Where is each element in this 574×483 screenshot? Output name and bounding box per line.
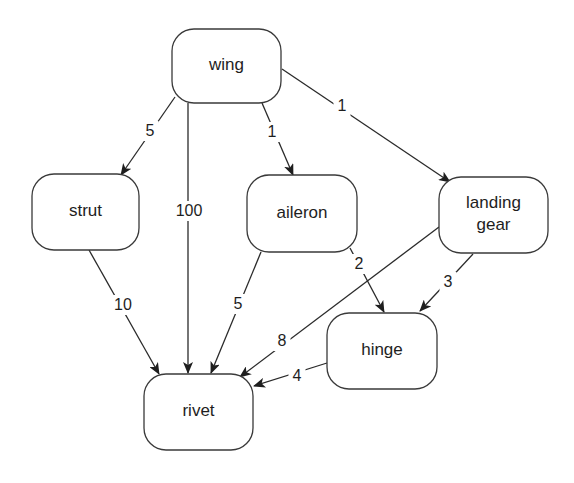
edge-weight-label: 1 — [268, 123, 277, 140]
edge-aileron-to-rivet: 5 — [211, 252, 261, 373]
node-label: gear — [476, 215, 510, 234]
edge-hinge-to-rivet: 4 — [254, 363, 327, 386]
edge-aileron-to-hinge: 2 — [350, 248, 384, 312]
graph-diagram: 5100111052384 wingstrutaileronlandinggea… — [0, 0, 574, 483]
node-landing-gear: landinggear — [439, 177, 548, 253]
nodes-layer: wingstrutaileronlandinggearhingerivet — [32, 29, 548, 450]
edge-wing-to-strut: 5 — [121, 97, 175, 175]
node-label: aileron — [276, 203, 327, 222]
edge-wing-to-landing_gear: 1 — [282, 69, 450, 182]
edge-weight-label: 5 — [146, 122, 155, 139]
node-label: strut — [69, 201, 102, 220]
node-aileron: aileron — [247, 175, 357, 252]
node-strut: strut — [32, 174, 139, 250]
edge-arrow — [282, 69, 450, 182]
edge-weight-label: 2 — [355, 255, 364, 272]
node-hinge: hinge — [327, 313, 437, 389]
edge-weight-label: 4 — [293, 367, 302, 384]
edge-wing-to-aileron: 1 — [262, 103, 293, 175]
node-wing: wing — [172, 29, 281, 103]
node-rivet: rivet — [144, 374, 253, 450]
edge-weight-label: 100 — [176, 202, 203, 219]
node-label: hinge — [361, 340, 403, 359]
edge-strut-to-rivet: 10 — [89, 250, 159, 374]
node-label: wing — [208, 55, 244, 74]
edge-weight-label: 8 — [278, 332, 287, 349]
node-label: landing — [466, 193, 521, 212]
edge-weight-label: 1 — [338, 97, 347, 114]
edge-weight-label: 5 — [234, 295, 243, 312]
edge-landing_gear-to-hinge: 3 — [420, 254, 473, 311]
edge-weight-label: 10 — [114, 296, 132, 313]
node-label: rivet — [182, 401, 214, 420]
edge-weight-label: 3 — [444, 273, 453, 290]
edge-wing-to-rivet: 100 — [172, 103, 207, 373]
